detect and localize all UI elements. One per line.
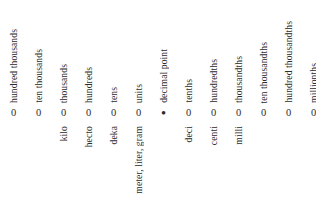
place-value-chart: hundred thousands0ten thousands0thousand… [0, 0, 316, 219]
place-name-text: decimal point [151, 49, 176, 103]
place-name-text: tens [101, 87, 126, 103]
place-name-label: ten thousands [26, 0, 51, 103]
place-digit: 0 [301, 104, 316, 122]
place-column-hundreds: hundreds0hecto [76, 0, 101, 219]
metric-prefix-text: deci [176, 126, 201, 142]
metric-prefix-label: centi [201, 126, 226, 219]
place-name-text: ten thousands [26, 49, 51, 103]
place-column-decimal-point: decimal point• [151, 0, 176, 219]
place-column-thousands: thousands0kilo [51, 0, 76, 219]
place-column-millionths: millionths0 [301, 0, 316, 219]
place-name-label: units [126, 0, 151, 103]
place-name-text: units [126, 84, 151, 103]
place-name-label: hundreds [76, 0, 101, 103]
place-column-tenths: tenths0deci [176, 0, 201, 219]
place-name-label: hundred thousandths [276, 0, 301, 103]
place-name-label: hundred thousands [1, 0, 26, 103]
place-digit: 0 [76, 104, 101, 122]
place-name-label: thousands [51, 0, 76, 103]
place-name-text: thousands [51, 64, 76, 103]
place-column-ten-thousands: ten thousands0 [26, 0, 51, 219]
place-digit: 0 [101, 104, 126, 122]
metric-prefix-label: milli [226, 126, 251, 219]
place-column-ten-thousandths: ten thousandths0 [251, 0, 276, 219]
metric-prefix-text: kilo [51, 126, 76, 141]
place-name-label: thousandths [226, 0, 251, 103]
place-digit: 0 [126, 104, 151, 122]
metric-prefix-text: hecto [76, 126, 101, 147]
metric-prefix-text: centi [201, 126, 226, 145]
place-name-text: millionths [301, 63, 316, 103]
place-name-text: tenths [176, 79, 201, 103]
place-name-label: ten thousandths [251, 0, 276, 103]
place-name-text: thousandths [226, 56, 251, 103]
place-name-label: decimal point [151, 0, 176, 103]
place-column-hundred-thousandths: hundred thousandths0 [276, 0, 301, 219]
place-name-label: tens [101, 0, 126, 103]
metric-prefix-text: deka [101, 126, 126, 145]
place-name-text: hundred thousands [1, 29, 26, 103]
metric-prefix-text: milli [226, 126, 251, 145]
place-digit: 0 [176, 104, 201, 122]
place-digit: 0 [226, 104, 251, 122]
place-column-hundred-thousands: hundred thousands0 [1, 0, 26, 219]
place-name-label: tenths [176, 0, 201, 103]
place-digit: 0 [276, 104, 301, 122]
place-digit: 0 [26, 104, 51, 122]
place-name-text: hundreds [76, 67, 101, 103]
place-digit: 0 [1, 104, 26, 122]
place-column-units: units0meter, liter, gram [126, 0, 151, 219]
metric-prefix-label: hecto [76, 126, 101, 219]
place-column-tens: tens0deka [101, 0, 126, 219]
decimal-point-mark: • [151, 104, 176, 122]
place-digit: 0 [51, 104, 76, 122]
place-name-label: hundredths [201, 0, 226, 103]
place-name-text: hundred thousandths [276, 21, 301, 103]
metric-prefix-label: kilo [51, 126, 76, 219]
place-name-text: hundredths [201, 59, 226, 103]
place-column-hundredths: hundredths0centi [201, 0, 226, 219]
place-name-label: millionths [301, 0, 316, 103]
place-column-thousandths: thousandths0milli [226, 0, 251, 219]
place-name-text: ten thousandths [251, 42, 276, 103]
metric-prefix-label: deka [101, 126, 126, 219]
place-digit: 0 [251, 104, 276, 122]
place-digit: 0 [201, 104, 226, 122]
metric-prefix-text: meter, liter, gram [126, 126, 151, 194]
metric-prefix-label: meter, liter, gram [126, 126, 151, 219]
metric-prefix-label: deci [176, 126, 201, 219]
